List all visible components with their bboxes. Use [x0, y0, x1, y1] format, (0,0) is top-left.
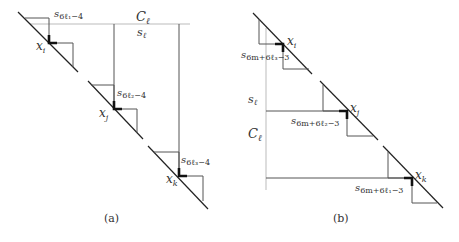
b-label-x-k: xk [415, 168, 427, 184]
a-label-s-l: sℓ [137, 26, 147, 40]
a-corner-k [179, 168, 187, 176]
b-corner-i [275, 44, 283, 52]
b-corner-k [404, 178, 412, 186]
b-label-s-j: s6m+6ℓ₂−3 [291, 115, 339, 128]
b-triangle-top-k [388, 152, 412, 178]
a-label-s-k: s6ℓ₃−4 [181, 154, 210, 167]
panel-a: Cℓ sℓ s6ℓ₁−4 xi s6ℓ₂−4 xj s6ℓ₃−4 xk (a) [18, 8, 210, 225]
panel-b: sℓ Cℓ xi s6m+6ℓ₃−3 xj s6m+6ℓ₂−3 xk s6m+6… [241, 13, 443, 225]
diagram-canvas: Cℓ sℓ s6ℓ₁−4 xi s6ℓ₂−4 xj s6ℓ₃−4 xk (a) [0, 0, 459, 242]
a-label-s-i: s6ℓ₁−4 [54, 8, 83, 21]
b-caption: (b) [333, 212, 349, 225]
a-corner-j [114, 101, 122, 109]
b-corner-j [339, 111, 347, 119]
b-label-s-l: sℓ [248, 93, 258, 107]
a-triangle-bottom-k [179, 176, 203, 201]
a-label-x-j: xj [99, 106, 109, 122]
a-label-x-k: xk [166, 172, 178, 188]
b-label-x-j: xj [350, 101, 360, 117]
b-label-s-k: s6m+6ℓ₁−3 [355, 182, 403, 195]
a-label-C: Cℓ [136, 9, 150, 26]
b-label-x-i: xi [287, 34, 297, 50]
b-triangle-top-j [323, 85, 347, 111]
b-label-C: Cℓ [248, 126, 262, 143]
a-label-x-i: xi [36, 39, 46, 55]
a-caption: (a) [104, 212, 119, 225]
a-label-s-j: s6ℓ₂−4 [117, 87, 146, 100]
a-corner-i [49, 35, 57, 43]
a-diagonal-3 [148, 146, 208, 209]
